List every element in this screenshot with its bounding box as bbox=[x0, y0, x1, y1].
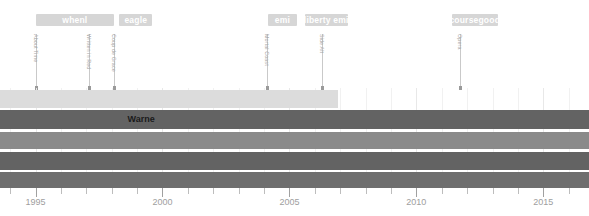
axis-tick-label: 1995 bbox=[26, 198, 46, 207]
event-label: Side Alt bbox=[319, 34, 324, 53]
axis-tick bbox=[416, 188, 417, 197]
axis-tick bbox=[239, 188, 240, 194]
axis-tick-label: 2000 bbox=[152, 198, 172, 207]
axis-tick bbox=[213, 188, 214, 194]
group-band-label: eagle bbox=[124, 16, 147, 25]
group-band[interactable]: eagle bbox=[119, 14, 152, 26]
timeline-row-bar[interactable] bbox=[0, 110, 589, 129]
axis-tick bbox=[391, 188, 392, 194]
time-axis: 19952000200520102015 bbox=[0, 188, 589, 216]
axis-tick bbox=[264, 188, 265, 194]
axis-tick-label: 2010 bbox=[406, 198, 426, 207]
timeline-chart: whenleagleemiliberty emicoursegood About… bbox=[0, 0, 589, 216]
axis-tick bbox=[112, 188, 113, 194]
axis-tick bbox=[493, 188, 494, 194]
axis-tick bbox=[137, 188, 138, 194]
axis-tick bbox=[10, 188, 11, 194]
group-band-label: whenl bbox=[62, 16, 87, 25]
axis-tick bbox=[569, 188, 570, 194]
axis-tick bbox=[366, 188, 367, 194]
axis-tick bbox=[86, 188, 87, 194]
event-label: Mortal Coast bbox=[263, 34, 268, 66]
axis-tick bbox=[162, 188, 163, 197]
axis-tick bbox=[36, 188, 37, 197]
axis-tick bbox=[518, 188, 519, 194]
axis-tick bbox=[289, 188, 290, 197]
event-label: Written in Red bbox=[85, 34, 90, 69]
timeline-row-bar[interactable] bbox=[0, 90, 338, 108]
axis-tick bbox=[61, 188, 62, 194]
timeline-row-bar[interactable] bbox=[0, 172, 589, 188]
group-band-label: emi bbox=[275, 16, 290, 25]
event-label: Coup de Grace bbox=[111, 34, 116, 72]
timeline-row-bar[interactable] bbox=[0, 132, 589, 149]
axis-tick bbox=[442, 188, 443, 194]
group-band[interactable]: liberty emi bbox=[305, 14, 348, 26]
group-band[interactable]: emi bbox=[268, 14, 297, 26]
event-label: About Time bbox=[32, 34, 37, 62]
axis-tick bbox=[543, 188, 544, 197]
timeline-row-bar[interactable] bbox=[0, 152, 589, 170]
group-band-label: coursegood bbox=[449, 16, 500, 25]
axis-tick-label: 2015 bbox=[533, 198, 553, 207]
group-band-label: liberty emi bbox=[304, 16, 349, 25]
axis-tick bbox=[340, 188, 341, 194]
group-band[interactable]: whenl bbox=[36, 14, 115, 26]
plot-area: Warne bbox=[0, 88, 589, 188]
axis-tick-label: 2005 bbox=[279, 198, 299, 207]
row-highlight-label: Warne bbox=[127, 115, 154, 124]
axis-tick bbox=[315, 188, 316, 194]
axis-tick bbox=[188, 188, 189, 194]
axis-tick bbox=[467, 188, 468, 194]
event-label: Opera bbox=[456, 34, 461, 49]
group-band[interactable]: coursegood bbox=[452, 14, 498, 26]
